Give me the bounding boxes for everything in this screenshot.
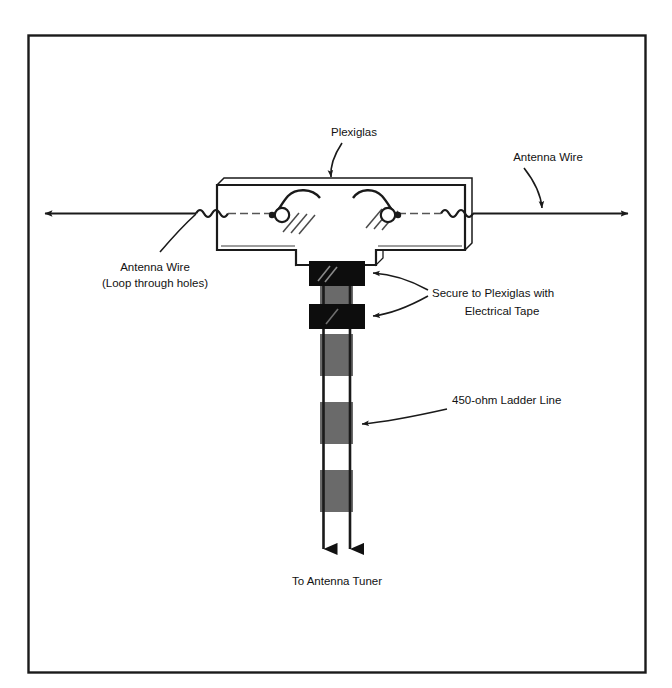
antenna-center-insulator-diagram: Plexiglas Antenna Wire Antenna Wire (Loo… [0,0,672,688]
label-to-antenna-tuner: To Antenna Tuner [292,575,382,587]
label-plexiglas: Plexiglas [331,126,377,138]
label-ladder-line: 450-ohm Ladder Line [452,394,561,406]
label-tape-line2: Electrical Tape [465,305,540,317]
diagram-canvas: Plexiglas Antenna Wire Antenna Wire (Loo… [0,0,672,688]
tape-wrap-upper [309,261,365,286]
plexiglas-hole-right [381,208,395,222]
tape-wrap-lower [309,304,365,329]
label-antenna-wire-right: Antenna Wire [513,151,583,163]
plexiglas-hole-left [275,208,289,222]
label-antenna-wire-left: Antenna Wire [120,261,190,273]
label-tape-line1: Secure to Plexiglas with [432,287,554,299]
label-antenna-wire-left-note: (Loop through holes) [102,277,208,289]
